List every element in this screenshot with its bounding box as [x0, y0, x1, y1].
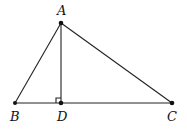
point-a [59, 21, 64, 26]
point-b [13, 101, 17, 105]
label-b: B [9, 109, 20, 124]
segment-ab [15, 23, 61, 103]
label-d: D [56, 109, 68, 124]
label-c: C [167, 109, 177, 124]
label-a: A [56, 3, 66, 18]
triangle-diagram: A B D C [0, 0, 187, 129]
point-c [170, 101, 175, 106]
point-d [59, 101, 64, 106]
segment-ac [61, 23, 172, 103]
